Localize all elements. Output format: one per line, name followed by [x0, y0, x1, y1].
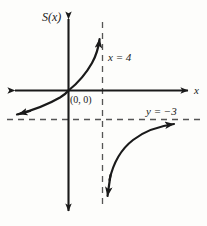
horizontal-asymptote-label: y = −3 — [146, 106, 177, 117]
x-axis-label: x — [194, 85, 199, 96]
origin-point-label: (0, 0) — [70, 95, 92, 105]
left-branch-tail-arrow — [19, 111, 31, 114]
vertical-asymptote-label: x = 4 — [108, 52, 131, 63]
right-branch-path — [110, 124, 175, 180]
right-branch-curve — [108, 124, 175, 196]
right-branch-tail-arrow — [108, 175, 111, 196]
graph-figure: S(x) x x = 4 y = −3 (0, 0) — [0, 0, 207, 226]
y-axis-label: S(x) — [42, 11, 61, 23]
